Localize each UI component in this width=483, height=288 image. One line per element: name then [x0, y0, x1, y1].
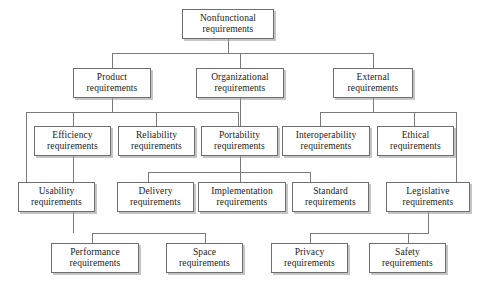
connector-drop-implementation [240, 172, 241, 182]
node-organizational[interactable]: Organizationalrequirements [196, 68, 284, 98]
node-label-primary: Implementation [211, 186, 273, 198]
node-label-primary: Legislative [406, 186, 449, 198]
node-privacy[interactable]: Privacyrequirements [271, 243, 348, 273]
node-delivery[interactable]: Deliveryrequirements [117, 182, 194, 212]
node-ethical[interactable]: Ethicalrequirements [377, 126, 454, 156]
connector-external-stem [373, 98, 374, 112]
node-label-secondary: requirements [131, 141, 182, 153]
node-portability[interactable]: Portabilityrequirements [201, 126, 278, 156]
connector-drop-safety [408, 233, 409, 243]
node-efficiency[interactable]: Efficiencyrequirements [34, 126, 111, 156]
node-label-secondary: requirements [203, 24, 254, 36]
node-interoperability[interactable]: Interoperabilityrequirements [282, 126, 370, 156]
node-label-secondary: requirements [217, 197, 268, 209]
node-label-primary: Efficiency [52, 130, 92, 142]
node-label-primary: Usability [39, 186, 75, 198]
connector-legislative-stem [428, 212, 429, 233]
node-implementation[interactable]: Implementationrequirements [198, 182, 286, 212]
connector-organizational-bus [148, 172, 310, 173]
node-label-primary: Space [193, 247, 216, 259]
node-label-secondary: requirements [284, 258, 335, 270]
connector-efficiency-bus [92, 233, 205, 234]
node-label-primary: Performance [70, 247, 120, 259]
node-product[interactable]: Productrequirements [73, 68, 151, 98]
node-label-primary: Standard [313, 186, 348, 198]
connector-drop-delivery [148, 172, 149, 182]
node-label-secondary: requirements [390, 141, 441, 153]
node-legislative[interactable]: Legislativerequirements [386, 182, 470, 212]
connector-drop-efficiency [73, 112, 74, 126]
connector-drop-reliability [156, 112, 157, 126]
connector-drop-external [373, 53, 374, 68]
node-label-primary: Product [97, 72, 127, 84]
node-label-secondary: requirements [179, 258, 230, 270]
connector-drop-space [205, 233, 206, 243]
node-nonfunctional[interactable]: Nonfunctionalrequirements [182, 9, 274, 39]
connector-root-stem [228, 39, 229, 53]
node-label-secondary: requirements [87, 83, 138, 95]
nonfunctional-requirements-diagram: NonfunctionalrequirementsProductrequirem… [0, 0, 483, 288]
node-label-primary: Portability [219, 130, 260, 142]
connector-drop-portability [238, 112, 239, 126]
connector-root-bus [112, 53, 373, 54]
node-label-primary: Interoperability [296, 130, 357, 142]
node-reliability[interactable]: Reliabilityrequirements [118, 126, 195, 156]
node-label-primary: Ethical [402, 130, 430, 142]
node-label-secondary: requirements [214, 141, 265, 153]
connector-drop-ethical [414, 112, 415, 126]
node-standard[interactable]: Standardrequirements [292, 182, 369, 212]
node-label-secondary: requirements [70, 258, 121, 270]
node-label-secondary: requirements [301, 141, 352, 153]
connector-drop-legislative-long [456, 112, 457, 182]
node-label-primary: Delivery [138, 186, 172, 198]
node-external[interactable]: Externalrequirements [333, 68, 413, 98]
node-label-secondary: requirements [31, 197, 82, 209]
node-label-secondary: requirements [382, 258, 433, 270]
node-label-secondary: requirements [215, 83, 266, 95]
connector-product-stem [112, 98, 113, 112]
node-label-primary: Nonfunctional [200, 13, 256, 25]
node-label-primary: Privacy [295, 247, 325, 259]
connector-drop-standard [310, 172, 311, 182]
node-label-primary: Safety [395, 247, 420, 259]
connector-external-bus [320, 112, 456, 113]
node-usability[interactable]: Usabilityrequirements [18, 182, 95, 212]
connector-product-bus [26, 112, 238, 113]
node-safety[interactable]: Safetyrequirements [369, 243, 446, 273]
node-label-primary: Organizational [211, 72, 269, 84]
node-label-secondary: requirements [403, 197, 454, 209]
connector-drop-privacy [310, 233, 311, 243]
node-performance[interactable]: Performancerequirements [51, 243, 139, 273]
node-label-secondary: requirements [130, 197, 181, 209]
connector-legislative-bus [310, 233, 429, 234]
connector-drop-performance [92, 233, 93, 243]
connector-drop-interoperability [320, 112, 321, 126]
node-label-primary: External [357, 72, 390, 84]
node-label-secondary: requirements [348, 83, 399, 95]
node-label-primary: Reliability [136, 130, 177, 142]
node-space[interactable]: Spacerequirements [166, 243, 243, 273]
node-label-secondary: requirements [47, 141, 98, 153]
node-label-secondary: requirements [305, 197, 356, 209]
connector-drop-product [112, 53, 113, 68]
connector-drop-organizational [240, 53, 241, 68]
connector-drop-usability-long [26, 112, 27, 182]
